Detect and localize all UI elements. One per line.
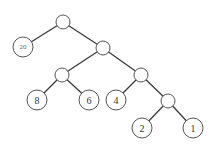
node-label-8: 8 — [35, 95, 40, 106]
node-label-4: 4 — [114, 95, 119, 106]
node-c — [134, 68, 148, 82]
node-label-2: 2 — [140, 123, 145, 134]
node-label-1: 1 — [191, 123, 196, 134]
node-label-20: 20 — [20, 43, 28, 51]
node-a — [96, 41, 110, 55]
node-b — [55, 68, 69, 82]
nodes: 20 8 6 4 2 1 — [13, 15, 203, 138]
edges — [23, 22, 193, 128]
node-d — [161, 94, 175, 108]
tree-diagram: 20 8 6 4 2 1 — [0, 0, 216, 148]
node-root — [56, 15, 70, 29]
node-label-6: 6 — [87, 95, 92, 106]
